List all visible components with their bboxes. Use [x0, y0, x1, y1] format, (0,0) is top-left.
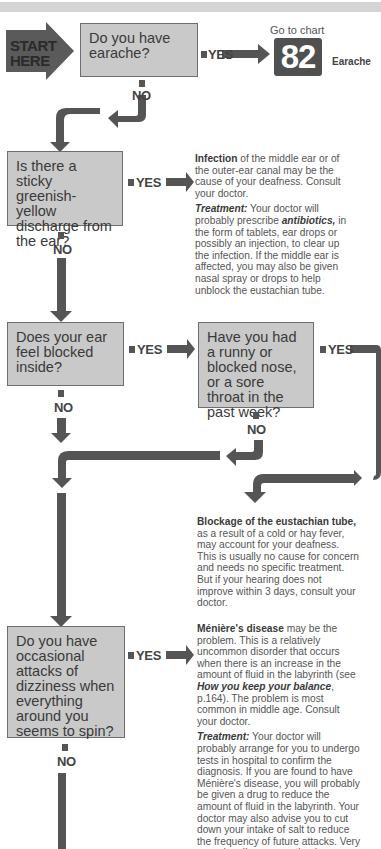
treatment-emphasis: antibiotics,: [282, 215, 336, 226]
no-marker: [58, 232, 64, 239]
question-text: Do you have occasional attacks of dizzin…: [16, 633, 114, 739]
chart-name: Earache: [332, 56, 371, 67]
no-label: NO: [132, 88, 151, 103]
no-marker: [139, 80, 145, 87]
result-title: Infection: [195, 153, 237, 164]
start-line2: HERE: [10, 53, 56, 68]
question-text: Do you have earache?: [89, 30, 170, 61]
yes-label: YES: [328, 342, 353, 357]
yes-marker: [128, 179, 134, 186]
question-box-earache: Do you have earache?: [80, 23, 198, 77]
question-text: Have you had a runny or blocked nose, or…: [207, 329, 296, 420]
yes-label: YES: [136, 648, 161, 663]
no-marker: [62, 744, 68, 751]
question-box-runny-nose: Have you had a runny or blocked nose, or…: [198, 322, 314, 408]
yes-marker: [129, 346, 135, 353]
treatment-text: Your doctor will probably arrange for yo…: [197, 731, 360, 849]
menieres-result: Ménière's disease may be the problem. Th…: [197, 623, 361, 849]
no-marker: [253, 412, 259, 419]
start-here-label: START HERE: [10, 38, 56, 68]
question-box-discharge: Is there a sticky greenish-yellow discha…: [7, 151, 123, 226]
blockage-result: Blockage of the eustachian tube, as a re…: [197, 516, 359, 613]
result-emphasis: How you keep your balance: [197, 681, 331, 692]
start-line1: START: [10, 38, 56, 53]
no-marker: [58, 390, 64, 397]
infection-result: Infection of the middle ear or of the ou…: [195, 153, 355, 300]
no-label: NO: [54, 400, 73, 415]
no-label: NO: [57, 754, 76, 769]
no-label: NO: [53, 242, 72, 257]
yes-marker: [320, 346, 326, 353]
result-title: Blockage of the eustachian tube,: [197, 516, 356, 527]
result-text: as a result of a cold or hay fever, may …: [197, 528, 359, 609]
treatment-label: Treatment:: [197, 731, 249, 742]
treatment-label: Treatment:: [195, 203, 247, 214]
question-box-dizziness: Do you have occasional attacks of dizzin…: [7, 626, 125, 738]
question-text: Does your ear feel blocked inside?: [16, 329, 107, 375]
yes-marker: [128, 652, 134, 659]
result-title: Ménière's disease: [197, 623, 284, 634]
goto-chart-label: Go to chart: [270, 24, 324, 36]
yes-label: YES: [137, 342, 162, 357]
chart-number-box[interactable]: 82: [274, 38, 322, 76]
question-box-blocked: Does your ear feel blocked inside?: [7, 322, 124, 386]
treatment-text: in the form of tablets, ear drops or pos…: [195, 215, 346, 296]
yes-marker: [201, 51, 207, 58]
no-label: NO: [247, 422, 266, 437]
yes-label: YES: [136, 175, 161, 190]
yes-label: YES: [208, 47, 233, 62]
